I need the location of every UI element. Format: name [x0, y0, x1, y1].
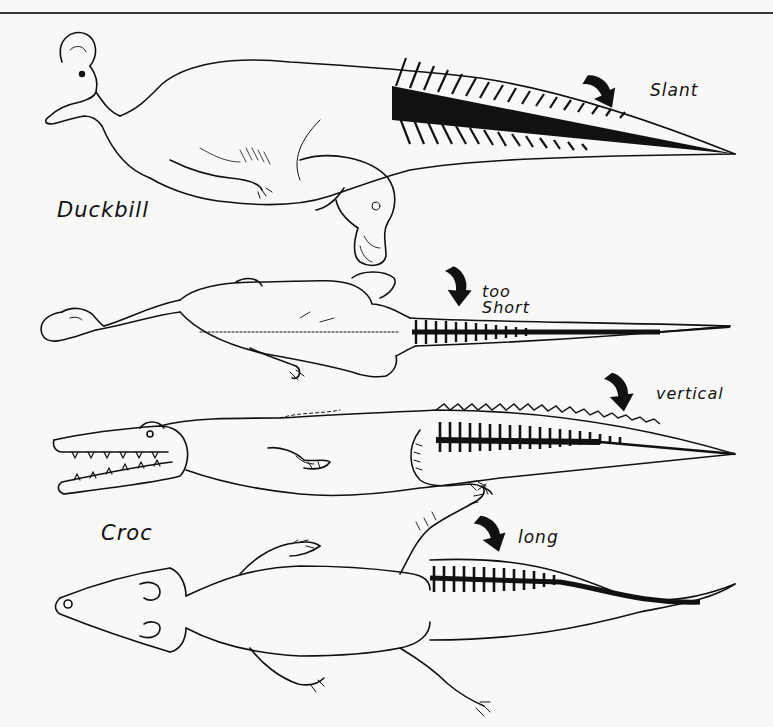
arrow-icon-long — [468, 513, 511, 552]
label-vertical: vertical — [656, 384, 724, 403]
label-slant: Slant — [650, 80, 698, 100]
croc-side-spines — [436, 422, 735, 454]
label-croc: Croc — [101, 521, 153, 545]
croc-top-view — [56, 484, 736, 716]
duckbill-top-spines — [412, 320, 730, 344]
arrow-icon-vertical — [596, 370, 639, 412]
label-long: long — [518, 527, 559, 547]
anatomy-drawing — [0, 0, 773, 727]
label-too-short-line2: Short — [482, 300, 530, 316]
arrow-icon-slant — [578, 73, 620, 108]
croc-side-ridge — [436, 404, 660, 424]
illustration-page: Slant too Short vertical long Duckbill C… — [0, 0, 773, 727]
croc-top-spines — [430, 566, 700, 602]
label-duckbill: Duckbill — [57, 198, 149, 222]
croc-side-view — [53, 410, 735, 496]
duckbill-top-view — [41, 272, 730, 380]
arrow-icon-too-short — [436, 263, 478, 306]
duckbill-side-view — [46, 32, 735, 265]
label-too-short: too Short — [482, 284, 530, 316]
